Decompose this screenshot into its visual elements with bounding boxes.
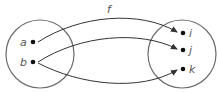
mapping-arrow-b-to-k bbox=[38, 63, 177, 83]
function-diagram: f a b i j k bbox=[0, 0, 218, 93]
element-label-k: k bbox=[189, 63, 196, 76]
element-label-b: b bbox=[20, 56, 27, 69]
element-label-a: a bbox=[20, 36, 27, 49]
element-dot-b bbox=[31, 60, 36, 65]
element-label-j: j bbox=[187, 44, 193, 57]
element-dot-i bbox=[181, 31, 186, 36]
domain-set-circle bbox=[6, 20, 74, 88]
mapping-arrow-b-to-j bbox=[38, 38, 177, 62]
element-dot-a bbox=[31, 40, 36, 45]
element-dot-k bbox=[181, 67, 186, 72]
element-dot-j bbox=[181, 48, 186, 53]
function-label: f bbox=[107, 3, 113, 16]
element-label-i: i bbox=[189, 27, 192, 40]
